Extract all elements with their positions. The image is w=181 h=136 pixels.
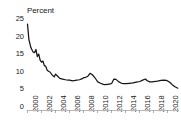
axis-lines: [27, 110, 179, 113]
plot-area: [0, 0, 181, 136]
chart-container: Percent 2520151050 200020022004200620082…: [0, 0, 181, 136]
percent-series-line: [28, 24, 178, 88]
